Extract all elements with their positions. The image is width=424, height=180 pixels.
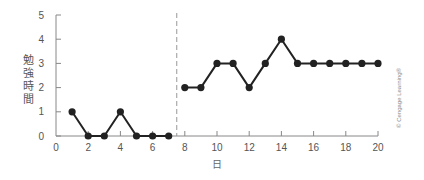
data-point [278, 36, 285, 43]
x-axis-label: 日 [212, 159, 222, 170]
y-tick-label: 3 [38, 58, 44, 69]
x-tick-label: 10 [211, 142, 223, 153]
x-tick-label: 12 [244, 142, 256, 153]
y-tick-label: 2 [38, 82, 44, 93]
data-point [69, 108, 76, 115]
data-point [101, 132, 108, 139]
data-point [149, 132, 156, 139]
x-tick-label: 4 [118, 142, 124, 153]
data-point [374, 60, 381, 67]
x-tick-label: 2 [85, 142, 91, 153]
y-axis-label-char: 強 [23, 67, 34, 80]
y-tick-label: 5 [38, 10, 44, 21]
x-tick-label: 18 [340, 142, 352, 153]
y-tick-label: 4 [38, 34, 44, 45]
y-axis-label-char: 時 [23, 80, 34, 93]
y-tick-label: 0 [38, 131, 44, 142]
y-axis-label: 勉強時間 [23, 53, 34, 106]
line-chart: 012345 02468101214161820 勉強時間 日 © Cengag… [0, 0, 424, 180]
data-point [85, 132, 92, 139]
x-tick-label: 8 [182, 142, 188, 153]
y-axis-label-char: 間 [23, 93, 34, 106]
x-tick-label: 20 [372, 142, 384, 153]
data-point [117, 108, 124, 115]
data-point [342, 60, 349, 67]
data-point [358, 60, 365, 67]
data-point [213, 60, 220, 67]
data-point [230, 60, 237, 67]
axes [56, 15, 378, 136]
data-point [246, 84, 253, 91]
data-point [310, 60, 317, 67]
data-point [133, 132, 140, 139]
data-point [262, 60, 269, 67]
y-axis-label-char: 勉 [23, 53, 34, 67]
data-point [294, 60, 301, 67]
y-axis-ticks: 012345 [38, 10, 61, 142]
x-tick-label: 14 [276, 142, 288, 153]
data-series [69, 36, 382, 140]
y-tick-label: 1 [38, 106, 44, 117]
data-point [181, 84, 188, 91]
x-tick-label: 0 [53, 142, 59, 153]
data-point [197, 84, 204, 91]
x-tick-label: 6 [150, 142, 156, 153]
x-tick-label: 16 [308, 142, 320, 153]
data-point [326, 60, 333, 67]
copyright-credit: © Cengage Learning® [396, 67, 402, 127]
data-point [165, 132, 172, 139]
